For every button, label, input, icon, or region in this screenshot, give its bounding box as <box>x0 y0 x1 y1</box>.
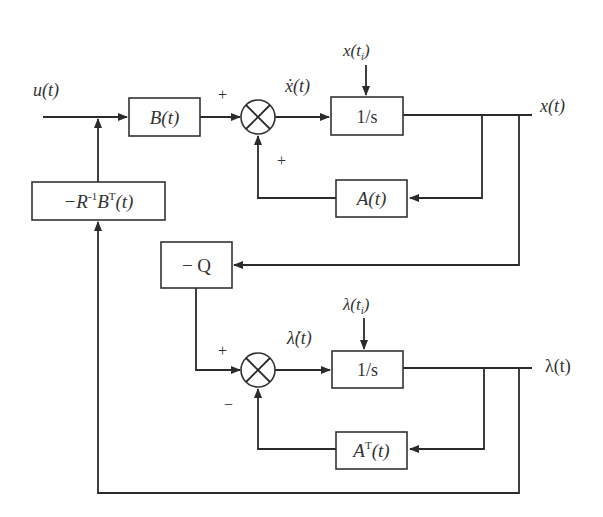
input-label: u(t) <box>33 80 59 101</box>
state-integrator-block: 1/s <box>331 97 403 135</box>
costate-summer <box>241 353 275 387</box>
costate-integrator-label: 1/s <box>357 360 378 380</box>
costate-derivative-label: λ̇(t) <box>286 328 312 349</box>
state-integrator-label: 1/s <box>356 107 377 127</box>
costate-output-label: λ(t) <box>545 356 571 377</box>
b-block-label: B(t) <box>150 107 180 129</box>
neg-q-label: − Q <box>182 255 211 276</box>
state-initial-label: x(ti) <box>342 41 370 62</box>
gain-block: −R-1BT(t) <box>32 182 165 220</box>
gain-block-label: −R-1BT(t) <box>64 190 134 213</box>
block-diagram: B(t) 1/s A(t) −R-1BT(t) − Q 1/s AT(t) u(… <box>0 0 603 517</box>
b-block: B(t) <box>129 98 200 136</box>
costate-initial-label: λ(ti) <box>342 295 370 316</box>
state-sum-sign-bottom: + <box>277 152 286 169</box>
neg-q-block: − Q <box>161 242 232 288</box>
costate-integrator-block: 1/s <box>332 351 403 388</box>
state-sum-sign-left: + <box>218 86 227 103</box>
costate-sum-sign-left: + <box>218 342 227 359</box>
a-block-label: A(t) <box>355 188 387 210</box>
a-block: A(t) <box>336 180 407 217</box>
state-output-label: x(t) <box>539 96 565 117</box>
at-block: AT(t) <box>336 432 407 469</box>
costate-sum-sign-bottom: − <box>224 396 233 413</box>
state-summer <box>241 100 275 134</box>
state-derivative-label: ẋ(t) <box>284 76 310 97</box>
